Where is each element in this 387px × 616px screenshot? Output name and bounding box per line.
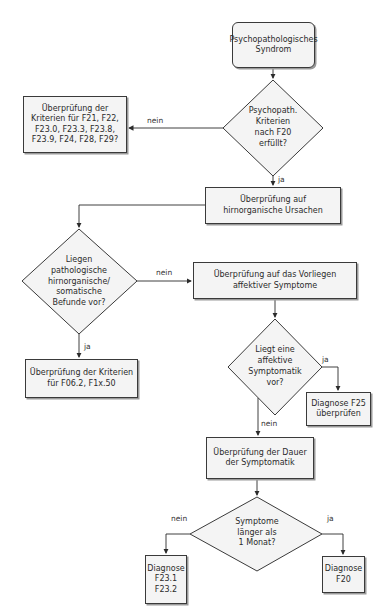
- node-text: überprüfen: [316, 409, 361, 418]
- decision-text-duration: Symptome länger als 1 Monat?: [215, 510, 299, 556]
- node-text: nach F20: [255, 128, 292, 137]
- node-text: Diagnose: [325, 564, 362, 573]
- decision-text-affective: Liegt eine affektive Symptomatik vor?: [238, 340, 312, 394]
- process-check-affective-symptoms: Überprüfung auf das Vorliegen affektiver…: [193, 262, 357, 299]
- node-text: F23.9, F24, F28, F29?: [32, 135, 118, 144]
- node-text: affektive: [258, 356, 293, 365]
- edge-label-d2-no: nein: [156, 268, 172, 277]
- node-text: Symptomatik: [248, 367, 301, 376]
- node-text: F23.1: [155, 574, 177, 583]
- result-diagnosis-f23: Diagnose F23.1 F23.2: [145, 555, 187, 604]
- node-text: 1 Monat?: [239, 538, 276, 547]
- node-text: der Symptomatik: [225, 458, 294, 467]
- node-text: pathologische: [51, 266, 107, 275]
- process-check-f06-criteria: Überprüfung der Kriterien für F06.2, F1x…: [25, 359, 138, 398]
- edge-label-d4-yes: ja: [327, 514, 334, 523]
- node-text: F23.0, F23.3, F23.8,: [35, 125, 115, 134]
- node-text: Diagnose F25: [311, 399, 366, 408]
- result-diagnosis-f20: Diagnose F20: [322, 556, 365, 593]
- node-text: Liegt eine: [255, 345, 295, 354]
- node-text: Kriterien für F21, F22,: [31, 114, 119, 123]
- node-text: Befunde vor?: [52, 298, 105, 307]
- node-text: hirnorganische Ursachen: [223, 206, 323, 215]
- process-check-duration: Überprüfung der Dauer der Symptomatik: [206, 437, 314, 479]
- node-text: Diagnose: [147, 564, 184, 573]
- node-text: hirnorganische/: [48, 277, 110, 286]
- edge-label-d3-yes: ja: [322, 355, 329, 364]
- node-text: Überprüfung auf das Vorliegen: [214, 270, 337, 279]
- decision-text-organic-findings: Liegen pathologische hirnorganische/ som…: [34, 249, 124, 315]
- node-text: für F06.2, F1x.50: [47, 379, 115, 388]
- edge-label-d4-no: nein: [171, 514, 187, 523]
- edge-label-d1-no: nein: [147, 116, 163, 125]
- node-text: Überprüfung der Kriterien: [30, 368, 133, 377]
- node-text: affektiver Symptome: [233, 281, 317, 290]
- edge-label-d1-yes: ja: [278, 175, 285, 184]
- node-text: länger als: [237, 528, 276, 537]
- result-check-f25: Diagnose F25 überprüfen: [306, 392, 371, 426]
- process-check-other-criteria: Überprüfung der Kriterien für F21, F22, …: [23, 96, 127, 153]
- node-text: Liegen: [66, 255, 93, 264]
- node-text: Überprüfung auf: [240, 195, 306, 204]
- node-text: Kriterien: [256, 117, 290, 126]
- node-text: vor?: [266, 378, 283, 387]
- node-text: Psychopathologisches: [229, 35, 317, 44]
- node-text: Psychopath.: [249, 106, 298, 115]
- edge-label-d3-no: nein: [261, 419, 277, 428]
- node-text: Syndrom: [256, 45, 292, 54]
- node-text: somatische: [56, 287, 102, 296]
- node-text: Überprüfung der Dauer: [213, 448, 306, 457]
- node-text: Symptome: [235, 517, 278, 526]
- start-node-psychopathological-syndrome: Psychopathologisches Syndrom: [232, 22, 315, 68]
- node-text: erfüllt?: [259, 139, 287, 148]
- node-text: F20: [336, 575, 351, 584]
- decision-text-f20-criteria: Psychopath. Kriterien nach F20 erfüllt?: [233, 100, 313, 156]
- node-text: F23.2: [155, 585, 177, 594]
- process-check-organic-causes: Überprüfung auf hirnorganische Ursachen: [205, 187, 341, 224]
- node-text: Überprüfung der: [42, 104, 108, 113]
- edge-label-d2-yes: ja: [84, 342, 91, 351]
